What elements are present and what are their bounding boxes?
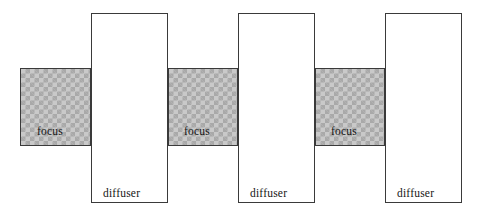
diffuser-label: diffuser (103, 188, 140, 200)
focus-label: focus (184, 126, 210, 138)
focus-label: focus (37, 126, 63, 138)
diffuser-label: diffuser (397, 188, 434, 200)
diagram-canvas: focus focus focus diffuser diffuser diff… (0, 0, 481, 220)
focus-label: focus (331, 126, 357, 138)
diffuser-column (385, 13, 462, 203)
diffuser-column (91, 13, 168, 203)
diffuser-label: diffuser (250, 188, 287, 200)
diffuser-column (238, 13, 315, 203)
